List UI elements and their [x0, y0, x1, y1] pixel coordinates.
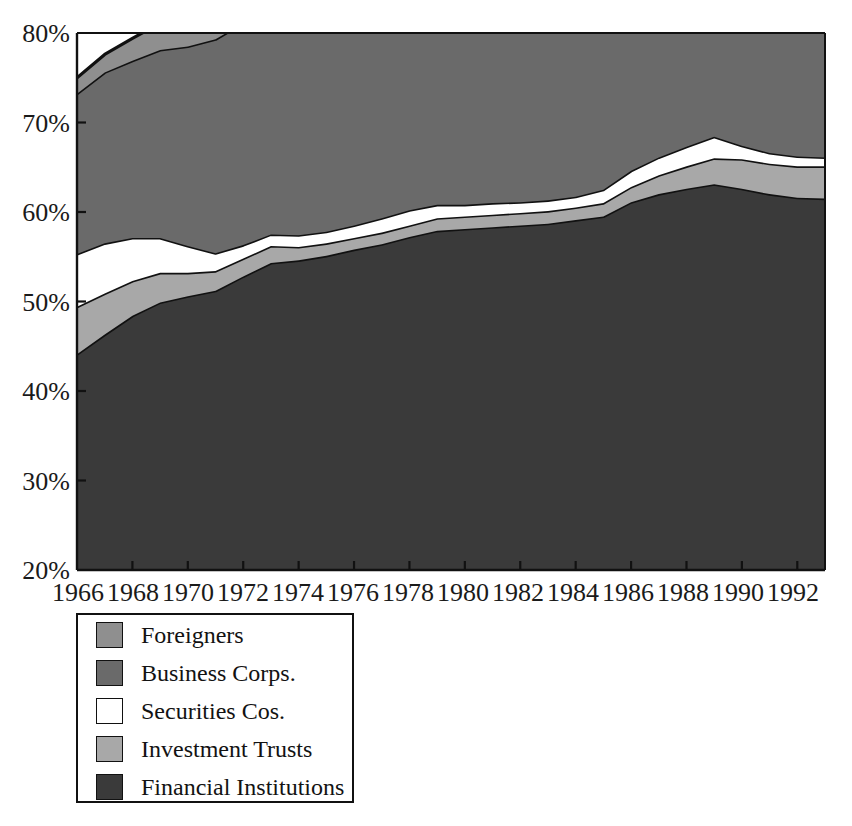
- legend-swatch-financial-institutions: [96, 774, 123, 800]
- legend-swatch-investment-trusts: [96, 736, 123, 762]
- legend-label-business-corps: Business Corps.: [141, 660, 296, 686]
- legend-label-securities-cos: Securities Cos.: [141, 698, 285, 724]
- legend-item-financial-institutions[interactable]: Financial Institutions: [96, 769, 352, 805]
- legend-swatch-securities-cos: [96, 698, 123, 724]
- legend-label-investment-trusts: Investment Trusts: [141, 736, 312, 762]
- legend-item-foreigners[interactable]: Foreigners: [96, 617, 352, 653]
- legend-item-business-corps[interactable]: Business Corps.: [96, 655, 352, 691]
- stacked-area-chart: 80% 70% 60% 50% 40% 30% 20% 1966 1968 19…: [0, 0, 852, 826]
- legend-item-investment-trusts[interactable]: Investment Trusts: [96, 731, 352, 767]
- legend-label-foreigners: Foreigners: [141, 622, 244, 648]
- legend-label-financial-institutions: Financial Institutions: [141, 774, 344, 800]
- chart-legend: Foreigners Business Corps. Securities Co…: [76, 613, 354, 803]
- legend-item-securities-cos[interactable]: Securities Cos.: [96, 693, 352, 729]
- legend-swatch-foreigners: [96, 622, 123, 648]
- legend-swatch-business-corps: [96, 660, 123, 686]
